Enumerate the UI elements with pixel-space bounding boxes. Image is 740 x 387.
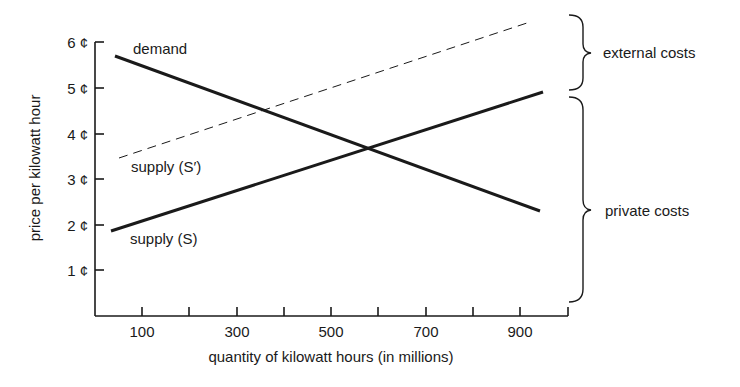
external-costs-brace (569, 15, 591, 90)
y-tick-label-2: 2 ¢ (67, 217, 88, 234)
demand-label: demand (133, 40, 187, 57)
y-axis-title: price per kilowatt hour (26, 95, 43, 242)
x-tick-label-100: 100 (129, 323, 154, 340)
x-tick-label-900: 900 (507, 323, 532, 340)
y-tick-label-1: 1 ¢ (67, 262, 88, 279)
private-costs-brace (569, 97, 591, 302)
x-tick-label-700: 700 (413, 323, 438, 340)
y-tick-label-6: 6 ¢ (67, 34, 88, 51)
supply-demand-chart: 6 ¢ 5 ¢ 4 ¢ 3 ¢ 2 ¢ 1 ¢ 100 300 500 700 … (0, 0, 740, 387)
x-tick-labels: 100 300 500 700 900 (129, 323, 532, 340)
private-costs-label: private costs (605, 202, 689, 219)
y-tick-labels: 6 ¢ 5 ¢ 4 ¢ 3 ¢ 2 ¢ 1 ¢ (67, 34, 88, 279)
y-tick-label-3: 3 ¢ (67, 171, 88, 188)
x-tick-label-300: 300 (224, 323, 249, 340)
supply-s-label: supply (S) (130, 230, 198, 247)
external-costs-label: external costs (603, 44, 696, 61)
y-tick-label-4: 4 ¢ (67, 126, 88, 143)
x-axis-title: quantity of kilowatt hours (in millions) (208, 348, 453, 365)
y-tick-label-5: 5 ¢ (67, 80, 88, 97)
demand-line (115, 56, 540, 211)
axes (95, 42, 568, 316)
supply-s-prime-label: supply (S′) (131, 158, 201, 175)
x-tick-label-500: 500 (318, 323, 343, 340)
